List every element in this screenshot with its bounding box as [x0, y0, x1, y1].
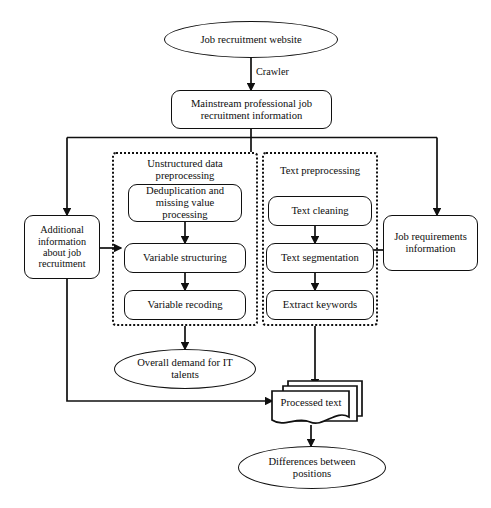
- node-label-line-1: Differences between: [268, 456, 355, 468]
- node-label-line-1: Additional: [40, 224, 84, 235]
- node-label: Variable recoding: [147, 299, 222, 311]
- group-title-line-2: preprocessing: [112, 170, 258, 182]
- flowchart-canvas: Job recruitment website Crawler Mainstre…: [0, 0, 491, 508]
- edge-label-crawler: Crawler: [256, 66, 289, 77]
- node-label: Processed text: [281, 397, 342, 409]
- node-extract-keywords[interactable]: Extract keywords: [266, 290, 374, 320]
- node-label-line-4: recruitment: [39, 258, 86, 269]
- node-overall-demand-for-it-talents[interactable]: Overall demand for IT talents: [114, 349, 256, 389]
- node-label: Extract keywords: [283, 299, 357, 311]
- node-label-line-2: talents: [171, 369, 199, 381]
- node-label-line-2: missing value: [156, 197, 215, 209]
- node-job-requirements-information[interactable]: Job requirements information: [383, 215, 478, 271]
- node-label-line-1: Mainstream professional job: [191, 98, 312, 110]
- node-label-line-3: processing: [162, 209, 207, 221]
- node-additional-information-about-job-recruitment[interactable]: Additional information about job recruit…: [24, 215, 100, 279]
- group-title-line-1: Unstructured data: [112, 158, 258, 170]
- edge-label-text: Crawler: [256, 66, 289, 77]
- group-title-unstructured: Unstructured data preprocessing: [112, 158, 258, 182]
- node-label: Text cleaning: [291, 205, 348, 217]
- node-text-cleaning[interactable]: Text cleaning: [268, 196, 372, 226]
- node-label-line-1: Deduplication and: [146, 185, 224, 197]
- node-label: Job recruitment website: [200, 34, 301, 46]
- node-label-line-2: information: [405, 243, 455, 255]
- group-title-text-preprocessing: Text preprocessing: [262, 165, 378, 177]
- node-job-recruitment-website[interactable]: Job recruitment website: [164, 21, 338, 58]
- node-label-line-3: about job: [43, 247, 81, 258]
- node-variable-recoding[interactable]: Variable recoding: [124, 290, 246, 320]
- node-label-line-2: recruitment information: [201, 110, 303, 122]
- node-mainstream-recruitment-information[interactable]: Mainstream professional job recruitment …: [171, 90, 332, 129]
- node-text-segmentation[interactable]: Text segmentation: [266, 243, 374, 273]
- node-variable-structuring[interactable]: Variable structuring: [124, 243, 246, 273]
- node-label: Text segmentation: [281, 252, 359, 264]
- node-label-line-2: positions: [293, 468, 331, 480]
- group-title-line-1: Text preprocessing: [262, 165, 378, 177]
- node-label: Variable structuring: [143, 252, 227, 264]
- node-deduplication-missing-value[interactable]: Deduplication and missing value processi…: [128, 184, 242, 222]
- node-differences-between-positions[interactable]: Differences between positions: [238, 446, 386, 489]
- node-label-line-2: information: [38, 236, 86, 247]
- node-label-line-1: Overall demand for IT: [137, 357, 233, 369]
- node-label-line-1: Job requirements: [394, 231, 467, 243]
- node-processed-text[interactable]: Processed text: [274, 392, 348, 414]
